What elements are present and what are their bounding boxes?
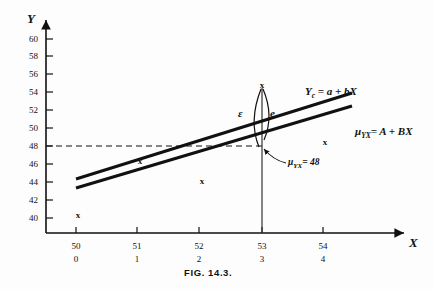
y-tick-label-52: 52 [22, 106, 38, 115]
mu-note-value: = 48 [302, 157, 319, 167]
x-tick-label-54: 54 [313, 242, 333, 251]
x-tick-label-50: 50 [66, 242, 86, 251]
y-tick-label-42: 42 [22, 196, 38, 205]
mu-note-subscript: YX [293, 162, 302, 170]
data-point-marker: x [323, 137, 328, 147]
equation-yc-subscript: c [312, 91, 315, 100]
data-point-marker: x [200, 176, 205, 186]
y-tick-label-40: 40 [22, 214, 38, 223]
y-tick-label-48: 48 [22, 142, 38, 151]
y-tick-label-44: 44 [22, 178, 38, 187]
error-bracket-left [254, 89, 261, 147]
data-point-marker: x [138, 156, 143, 166]
line-mu-population [76, 106, 352, 188]
x-coded-label-4: 4 [313, 255, 333, 264]
y-tick-label-56: 56 [22, 70, 38, 79]
data-point-marker: x [260, 80, 265, 90]
mu-note-leader-arrow [264, 149, 286, 163]
x-coded-label-0: 0 [66, 255, 86, 264]
x-coded-label-3: 3 [252, 255, 272, 264]
figure-caption: FIG. 14.3. [184, 267, 232, 278]
equation-label-yc: Yc = a + bX [305, 86, 357, 100]
mu-value-annotation: μYX= 48 [288, 158, 320, 170]
x-coded-label-2: 2 [189, 255, 209, 264]
x-tick-label-53: 53 [252, 242, 272, 251]
y-axis-ticks [46, 39, 53, 218]
y-tick-label-58: 58 [22, 52, 38, 61]
equation-label-mu: μYX= A + BX [355, 126, 413, 140]
y-tick-label-54: 54 [22, 88, 38, 97]
x-coded-label-1: 1 [127, 255, 147, 264]
x-axis-title: X [409, 236, 418, 249]
x-axis-ticks [76, 227, 323, 233]
y-tick-label-60: 60 [22, 35, 38, 44]
equation-yc-symbol: Y [305, 85, 312, 97]
y-tick-label-46: 46 [22, 160, 38, 169]
y-axis-title: Y [27, 12, 35, 25]
x-tick-label-52: 52 [189, 242, 209, 251]
equation-mu-subscript: YX [361, 131, 371, 140]
epsilon-label: ε [238, 108, 243, 119]
x-tick-label-51: 51 [127, 242, 147, 251]
equation-yc-rhs: = a + bX [318, 85, 357, 97]
equation-mu-rhs: = A + BX [371, 125, 413, 137]
figure-container: Y X 60 58 56 54 52 50 48 46 44 42 40 50 … [0, 0, 434, 289]
data-point-marker: x [76, 210, 81, 220]
e-label: e [270, 108, 275, 119]
y-tick-label-50: 50 [22, 124, 38, 133]
